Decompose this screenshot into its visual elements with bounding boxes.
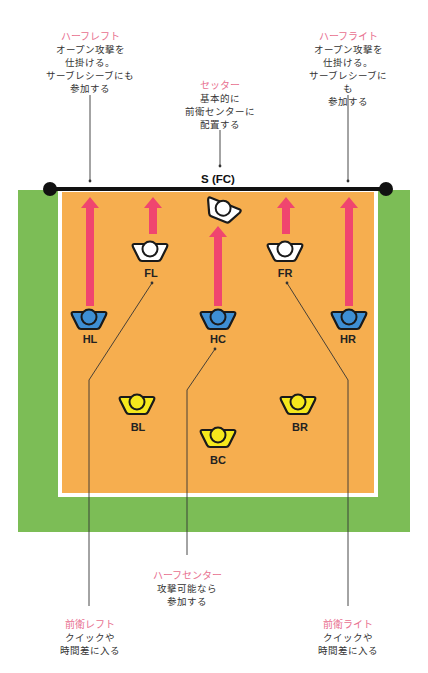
- callout-text: 基本的に 前衛センターに 配置する: [185, 92, 255, 131]
- player-BR: [281, 395, 316, 415]
- player-HR: [332, 310, 367, 330]
- label-HR: HR: [340, 333, 356, 345]
- label-HL: HL: [83, 333, 98, 345]
- callout-text: クイックや 時間差に入る: [60, 631, 120, 657]
- callout-front-left: 前衛レフト クイックや 時間差に入る: [60, 618, 120, 657]
- callout-title: 前衛レフト: [60, 618, 120, 631]
- callout-title: ハーフセンター: [153, 569, 222, 582]
- net-post-right: [379, 182, 393, 196]
- callout-half-left: ハーフレフト オープン攻撃を 仕掛ける。 サーブレシーブにも 参加する: [46, 30, 134, 95]
- callout-text: オープン攻撃を 仕掛ける。 サーブレシーブにも 参加する: [308, 43, 388, 108]
- player-HL: [72, 310, 107, 330]
- callout-title: ハーフライト: [308, 30, 388, 43]
- callout-front-right: 前衛ライト クイックや 時間差に入る: [318, 618, 378, 657]
- callout-setter: セッター 基本的に 前衛センターに 配置する: [185, 79, 255, 131]
- label-FL: FL: [144, 267, 158, 279]
- callout-text: クイックや 時間差に入る: [318, 631, 378, 657]
- callout-text: オープン攻撃を 仕掛ける。 サーブレシーブにも 参加する: [46, 43, 134, 95]
- callout-title: セッター: [185, 79, 255, 92]
- callout-half-right: ハーフライト オープン攻撃を 仕掛ける。 サーブレシーブにも 参加する: [308, 30, 388, 108]
- net-label: S (FC): [201, 173, 235, 185]
- player-BL: [120, 395, 155, 415]
- player-FL: [133, 242, 168, 262]
- label-BL: BL: [131, 421, 146, 433]
- label-HC: HC: [210, 333, 226, 345]
- callout-title: ハーフレフト: [46, 30, 134, 43]
- callout-text: 攻撃可能なら 参加する: [153, 582, 222, 608]
- player-HC: [201, 310, 236, 330]
- label-BC: BC: [210, 454, 226, 466]
- volleyball-formation-diagram: S (FC) FL FR HL: [0, 0, 428, 673]
- player-BC: [201, 428, 236, 448]
- label-BR: BR: [292, 421, 308, 433]
- callout-title: 前衛ライト: [318, 618, 378, 631]
- callout-half-center: ハーフセンター 攻撃可能なら 参加する: [153, 569, 222, 608]
- net-post-left: [43, 182, 57, 196]
- player-FR: [268, 242, 303, 262]
- label-FR: FR: [278, 267, 293, 279]
